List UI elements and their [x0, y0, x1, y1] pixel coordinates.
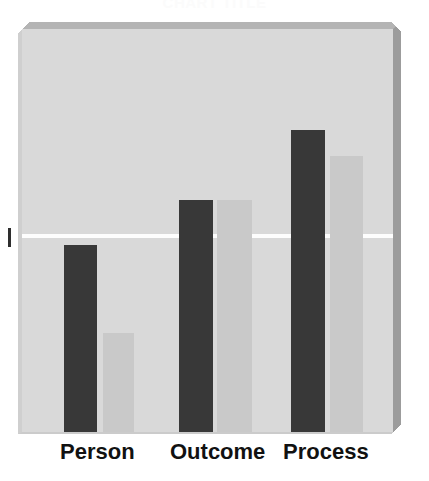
- bar-person-series-1: [64, 245, 97, 432]
- category-label-person: Person: [60, 437, 135, 467]
- bar-person-series-2: [103, 333, 134, 432]
- plot-area: [22, 29, 393, 432]
- y-axis-tick-mark: [8, 228, 11, 247]
- category-axis-labels: PersonOutcomeProcess: [0, 437, 429, 469]
- bar-process-series-2: [330, 156, 363, 432]
- category-label-outcome: Outcome: [170, 437, 265, 467]
- category-label-process: Process: [283, 437, 369, 467]
- chart-title: CHART TITLE: [0, 0, 429, 12]
- bar-chart-figure: CHART TITLE PersonOutcomeProcess: [0, 0, 429, 481]
- bar-outcome-series-1: [179, 200, 213, 432]
- bar-process-series-1: [291, 130, 325, 432]
- bar-outcome-series-2: [217, 200, 252, 432]
